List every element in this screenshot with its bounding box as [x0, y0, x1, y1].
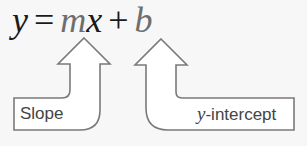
slope-label: Slope	[20, 104, 63, 124]
slope-intercept-diagram: y=mx+b Slope y-intercept	[0, 0, 307, 146]
intercept-label: y-intercept	[197, 103, 276, 125]
slope-label-text: Slope	[20, 104, 63, 123]
intercept-label-text: -intercept	[205, 105, 276, 124]
